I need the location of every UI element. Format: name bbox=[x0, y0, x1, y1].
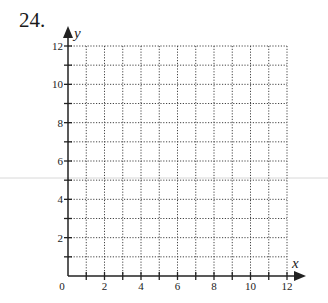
x-tick-label: 8 bbox=[211, 280, 217, 292]
y-tick-label: 8 bbox=[58, 117, 64, 129]
axes bbox=[63, 26, 306, 281]
y-tick-label: 12 bbox=[52, 40, 63, 52]
x-axis-arrow-icon bbox=[294, 271, 306, 281]
y-tick-label: 2 bbox=[58, 232, 64, 244]
y-tick-label: 6 bbox=[58, 155, 64, 167]
tick-labels: 02468101224681012 bbox=[52, 40, 293, 292]
x-tick-label: 0 bbox=[59, 280, 65, 292]
x-axis-label: x bbox=[291, 255, 299, 271]
coordinate-grid: 02468101224681012 y x bbox=[0, 0, 328, 303]
x-tick-label: 4 bbox=[138, 280, 144, 292]
grid-lines bbox=[68, 46, 287, 276]
ticks bbox=[64, 46, 287, 280]
y-axis-arrow-icon bbox=[63, 26, 73, 38]
x-tick-label: 12 bbox=[282, 280, 293, 292]
y-axis-label: y bbox=[72, 25, 81, 41]
x-tick-label: 6 bbox=[175, 280, 181, 292]
x-tick-label: 10 bbox=[245, 280, 257, 292]
y-tick-label: 4 bbox=[58, 193, 64, 205]
x-tick-label: 2 bbox=[102, 280, 108, 292]
y-tick-label: 10 bbox=[52, 78, 64, 90]
